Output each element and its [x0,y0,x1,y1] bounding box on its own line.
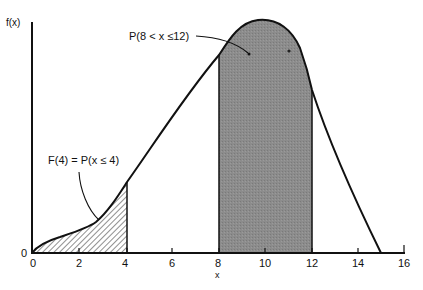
tick-label-2: 2 [76,257,82,269]
tick-label-0: 0 [30,257,36,269]
shaded-region-8-12 [219,20,312,253]
annotation-f4: F(4) = P(x ≤ 4) [48,154,119,166]
y-axis-label: f(x) [6,17,20,28]
tick-label-12: 12 [306,257,318,269]
ink-mark [287,49,290,52]
tick-label-16: 16 [398,257,410,269]
x-axis-label: x [215,270,220,280]
y-origin-label: 0 [21,247,27,259]
tick-label-6: 6 [169,257,175,269]
density-curve [32,20,381,253]
tick-label-8: 8 [215,257,221,269]
annotation-dot [248,53,251,56]
tick-label-4: 4 [122,257,128,269]
density-chart: 0 2 4 6 8 10 12 14 16 0 f(x) x P(8 < x ≤… [0,0,423,290]
tick-label-14: 14 [352,257,364,269]
tick-label-10: 10 [259,257,271,269]
annotation-leader-f4 [79,172,99,220]
annotation-p-8-12: P(8 < x ≤12) [129,30,189,42]
